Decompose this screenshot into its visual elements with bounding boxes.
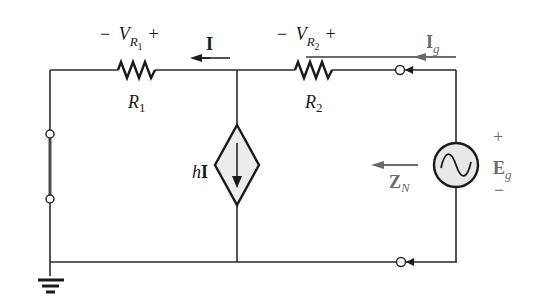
label-ig: Ig <box>426 32 440 56</box>
label-current-i: I <box>206 34 213 54</box>
label-ig-sub: g <box>433 41 440 56</box>
label-r1-r: R <box>127 92 139 112</box>
label-vr2: − VR2+ <box>277 24 336 52</box>
label-zn-sub: N <box>400 180 411 195</box>
label-vr1-minus: − <box>100 24 110 44</box>
ground-icon <box>38 280 64 292</box>
label-r2: R2 <box>304 92 323 115</box>
label-eg-plus: + <box>493 127 503 147</box>
label-eg-sub: g <box>505 167 512 182</box>
label-vr2-sub: 2 <box>315 41 320 52</box>
label-r2-r: R <box>304 92 316 112</box>
label-vr1-plus: + <box>149 24 159 44</box>
terminal-right-bottom <box>397 258 406 267</box>
label-vr2-minus: − <box>277 24 287 44</box>
terminal-arrow-top-icon <box>405 66 413 74</box>
label-eg: Eg <box>493 158 512 182</box>
label-vr1-r: R <box>129 34 138 49</box>
resistor-r1 <box>118 62 155 78</box>
label-vr2-r: R <box>306 34 315 49</box>
arrow-left-icon <box>190 54 230 62</box>
terminal-arrow-bottom-icon <box>406 258 414 266</box>
terminal-left-bottom <box>46 195 54 203</box>
resistor-r2 <box>295 62 332 78</box>
label-eg-e: E <box>493 158 505 178</box>
label-eg-minus: − <box>494 180 504 200</box>
label-vr2-plus: + <box>326 24 336 44</box>
label-zn: ZN <box>389 172 411 195</box>
label-hi: hI <box>192 162 208 182</box>
terminal-right-top <box>396 66 405 75</box>
label-r1-sub: 1 <box>139 100 146 115</box>
terminal-left-top <box>46 130 54 138</box>
label-r2-sub: 2 <box>316 100 323 115</box>
circuit-diagram: I Ig − VR1+ R1 − VR2+ R2 hI ZN + Eg <box>0 0 540 306</box>
label-vr1-sub: 1 <box>138 41 143 52</box>
label-r1: R1 <box>127 92 146 115</box>
label-hi-h: h <box>192 162 201 182</box>
label-ig-main: I <box>426 32 433 52</box>
arrow-left-zn-icon <box>371 161 418 169</box>
label-zn-z: Z <box>389 172 401 192</box>
label-hi-i: I <box>201 162 208 182</box>
label-vr1: − VR1+ <box>100 24 159 52</box>
